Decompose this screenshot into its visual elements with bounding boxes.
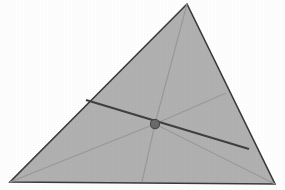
interior-point xyxy=(150,119,159,128)
triangle-diagram xyxy=(0,0,285,190)
main-triangle xyxy=(10,4,275,184)
figure-canvas xyxy=(0,0,285,190)
